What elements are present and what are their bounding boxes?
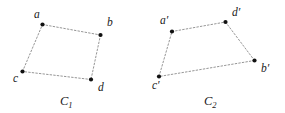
vertex-label-ap: a′ — [160, 14, 169, 26]
shape-caption-c1: C1 — [60, 94, 73, 110]
vertex-label-b: b — [107, 16, 113, 28]
vertex-dot-d — [89, 77, 93, 81]
vertex-label-c: c — [13, 72, 18, 84]
vertex-dot-bp — [252, 58, 256, 62]
vertex-dot-b — [98, 33, 102, 37]
edge-cp-ap — [159, 32, 172, 77]
shape-caption-subscript: 1 — [68, 100, 72, 110]
quadrilateral-diagram: abcdC1a′d′b′c′C2 — [0, 0, 285, 113]
shape-c2: a′d′b′c′C2 — [152, 6, 270, 110]
vertex-label-a: a — [34, 8, 40, 20]
shapes-layer: abcdC1a′d′b′c′C2 — [13, 6, 270, 110]
edge-b-d — [91, 35, 101, 80]
shape-caption-subscript: 2 — [212, 100, 217, 110]
vertex-label-bp: b′ — [261, 62, 270, 74]
edge-a-b — [43, 25, 101, 36]
vertex-label-cp: c′ — [152, 79, 160, 91]
shape-caption-c2: C2 — [204, 94, 217, 110]
vertex-dot-ap — [170, 29, 174, 33]
edge-dp-bp — [226, 22, 255, 61]
shape-c1: abcdC1 — [13, 8, 113, 110]
vertex-label-dp: d′ — [232, 6, 241, 18]
edge-ap-dp — [172, 22, 226, 32]
vertex-dot-dp — [223, 20, 227, 24]
vertex-dot-c — [20, 69, 24, 73]
figure-canvas: abcdC1a′d′b′c′C2 — [0, 0, 285, 113]
edge-bp-cp — [159, 61, 255, 77]
vertex-dot-cp — [157, 74, 161, 78]
edge-c-a — [23, 25, 43, 72]
edge-d-c — [23, 72, 92, 80]
vertex-label-d: d — [98, 81, 104, 93]
vertex-dot-a — [40, 22, 44, 26]
